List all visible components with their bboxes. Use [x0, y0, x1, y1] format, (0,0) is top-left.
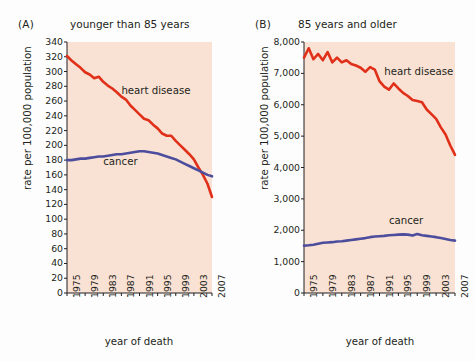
series-label-heart-disease: heart disease — [121, 85, 190, 96]
series-label-heart-disease: heart disease — [384, 66, 453, 77]
y-tick-label: 280 — [3, 80, 63, 91]
y-axis-title: rate per 100,000 population — [22, 46, 33, 190]
y-tick-label: 160 — [3, 169, 63, 180]
x-tick-label: 1999 — [180, 274, 191, 298]
figure-mortality-rates: (A) younger than 85 years (B) 85 years a… — [0, 0, 475, 361]
y-tick-label: 180 — [3, 154, 63, 165]
x-tick-label: 1999 — [421, 274, 432, 298]
x-tick-label: 2007 — [216, 274, 227, 298]
y-tick-label: 100 — [3, 213, 63, 224]
x-tick-label: 1979 — [89, 274, 100, 298]
x-tick-label: 2007 — [459, 274, 470, 298]
y-tick-label: 2,000 — [240, 224, 300, 235]
y-tick-label: 20 — [3, 272, 63, 283]
series-label-cancer: cancer — [103, 156, 137, 167]
y-tick-label: 320 — [3, 51, 63, 62]
y-tick-label: 8,000 — [240, 36, 300, 47]
y-tick-label: 7,000 — [240, 67, 300, 78]
x-tick-label: 1987 — [365, 274, 376, 298]
y-tick-label: 4,000 — [240, 162, 300, 173]
x-tick-label: 1995 — [162, 274, 173, 298]
y-tick-label: 6,000 — [240, 99, 300, 110]
x-tick-label: 2003 — [198, 274, 209, 298]
y-tick-label: 240 — [3, 110, 63, 121]
y-tick-label: 80 — [3, 228, 63, 239]
x-axis-title: year of death — [79, 336, 199, 347]
x-axis-title: year of death — [320, 336, 440, 347]
y-tick-label: 3,000 — [240, 193, 300, 204]
y-tick-label: 120 — [3, 198, 63, 209]
x-tick-label: 1987 — [125, 274, 136, 298]
y-tick-label: 1,000 — [240, 256, 300, 267]
y-tick-label: 5,000 — [240, 130, 300, 141]
y-tick-label: 0 — [240, 287, 300, 298]
y-tick-label: 200 — [3, 139, 63, 150]
x-tick-label: 1975 — [71, 274, 82, 298]
x-tick-label: 1995 — [402, 274, 413, 298]
x-tick-label: 1975 — [308, 274, 319, 298]
x-tick-label: 1983 — [107, 274, 118, 298]
x-tick-label: 1983 — [346, 274, 357, 298]
y-axis-title: rate per 100,000 population — [259, 46, 270, 190]
y-tick-label: 260 — [3, 95, 63, 106]
y-tick-label: 0 — [3, 287, 63, 298]
x-tick-label: 1991 — [144, 274, 155, 298]
y-tick-label: 300 — [3, 66, 63, 77]
y-tick-label: 140 — [3, 184, 63, 195]
y-tick-label: 40 — [3, 257, 63, 268]
y-tick-label: 340 — [3, 36, 63, 47]
y-tick-label: 60 — [3, 243, 63, 254]
x-tick-label: 1991 — [384, 274, 395, 298]
y-tick-label: 220 — [3, 125, 63, 136]
x-tick-label: 1979 — [327, 274, 338, 298]
series-label-cancer: cancer — [389, 215, 423, 226]
plot-canvas — [0, 0, 475, 361]
x-tick-label: 2003 — [440, 274, 451, 298]
